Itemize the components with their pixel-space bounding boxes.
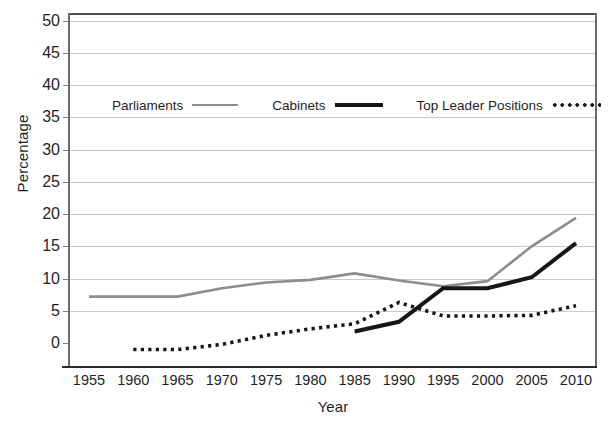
y-axis-tick-label: 35	[18, 108, 60, 126]
legend-item-top-leader-positions: Top Leader Positions	[417, 98, 607, 113]
x-axis-tick-label: 1990	[376, 372, 422, 388]
x-axis-line	[62, 366, 597, 368]
series-line-top-leader-positions	[133, 302, 576, 349]
x-axis-title: Year	[68, 398, 598, 415]
legend-label-top-leader-positions: Top Leader Positions	[417, 98, 543, 113]
x-axis-tick-label: 1970	[199, 372, 245, 388]
gray-solid-line-swatch-icon	[192, 104, 238, 106]
x-axis-tick-label: 2000	[465, 372, 511, 388]
black-thick-solid-line-swatch-icon	[335, 103, 383, 107]
legend-item-parliaments: Parliaments	[112, 98, 272, 113]
y-axis-tick-label: 40	[18, 76, 60, 94]
y-axis-tick-labels: 05101520253035404550	[14, 13, 60, 368]
y-axis-tick-label: 0	[18, 334, 60, 352]
x-axis-tick-label: 1995	[420, 372, 466, 388]
y-axis-tick-label: 10	[18, 270, 60, 288]
x-axis-tick-label: 2005	[509, 372, 555, 388]
x-axis-tick-label: 1960	[110, 372, 156, 388]
legend-item-cabinets: Cabinets	[272, 98, 416, 113]
y-axis-tick-label: 20	[18, 205, 60, 223]
x-axis-tick-label: 1965	[155, 372, 201, 388]
x-axis-tick-labels: 1955196019651970197519801985199019952000…	[68, 372, 597, 394]
x-axis-tick-label: 1985	[332, 372, 378, 388]
y-axis-tick-label: 15	[18, 237, 60, 255]
data-series-layer	[68, 13, 597, 368]
y-axis-tick-label: 25	[18, 173, 60, 191]
y-axis-tick-label: 5	[18, 302, 60, 320]
series-line-cabinets	[355, 243, 576, 331]
y-axis-tick-label: 45	[18, 44, 60, 62]
x-axis-tick-label: 1980	[287, 372, 333, 388]
legend-label-parliaments: Parliaments	[112, 98, 183, 113]
y-axis-tick-label: 30	[18, 141, 60, 159]
x-axis-tick-label: 2010	[553, 372, 599, 388]
legend-label-cabinets: Cabinets	[272, 98, 325, 113]
black-dotted-line-swatch-icon	[551, 103, 601, 107]
chart-page: Percentage 05101520253035404550 19551960…	[0, 0, 615, 432]
x-axis-tick-label: 1955	[66, 372, 112, 388]
chart-legend: Parliaments Cabinets Top Leader Position…	[112, 96, 607, 114]
x-axis-tick-label: 1975	[243, 372, 289, 388]
y-axis-tick-label: 50	[18, 12, 60, 30]
plot-area	[68, 13, 597, 368]
